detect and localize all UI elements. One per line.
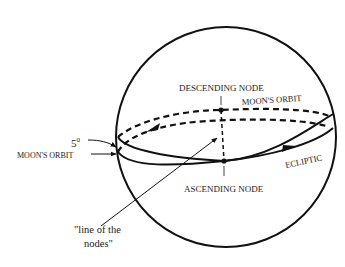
descending-node-point — [218, 107, 223, 112]
line-of-nodes-label-line1: "line of the — [74, 224, 121, 235]
moons-orbit-label-left: MOON'S ORBIT — [17, 151, 73, 160]
line-of-nodes-label-line2: nodes" — [84, 238, 113, 249]
moons-orbit-label-top: MOON'S ORBIT — [241, 93, 302, 107]
ascending-node-label: ASCENDING NODE — [184, 184, 264, 194]
descending-node-label: DESCENDING NODE — [179, 83, 264, 93]
celestial-sphere — [116, 27, 336, 247]
moons-orbit-back-dashed — [118, 109, 331, 137]
inclination-pointer-arrow — [88, 140, 116, 147]
line-of-nodes — [221, 110, 224, 161]
degree-symbol: 0 — [77, 136, 81, 144]
ecliptic-label: ECLIPTIC — [284, 152, 323, 170]
orbit-direction-arrow-back — [146, 123, 160, 132]
orbit-direction-arrow-front — [282, 145, 296, 152]
inclination-label: 50 — [71, 136, 81, 149]
ascending-node-point — [221, 158, 226, 163]
celestial-sphere-diagram: DESCENDING NODE MOON'S ORBIT ASCENDING N… — [0, 0, 345, 267]
